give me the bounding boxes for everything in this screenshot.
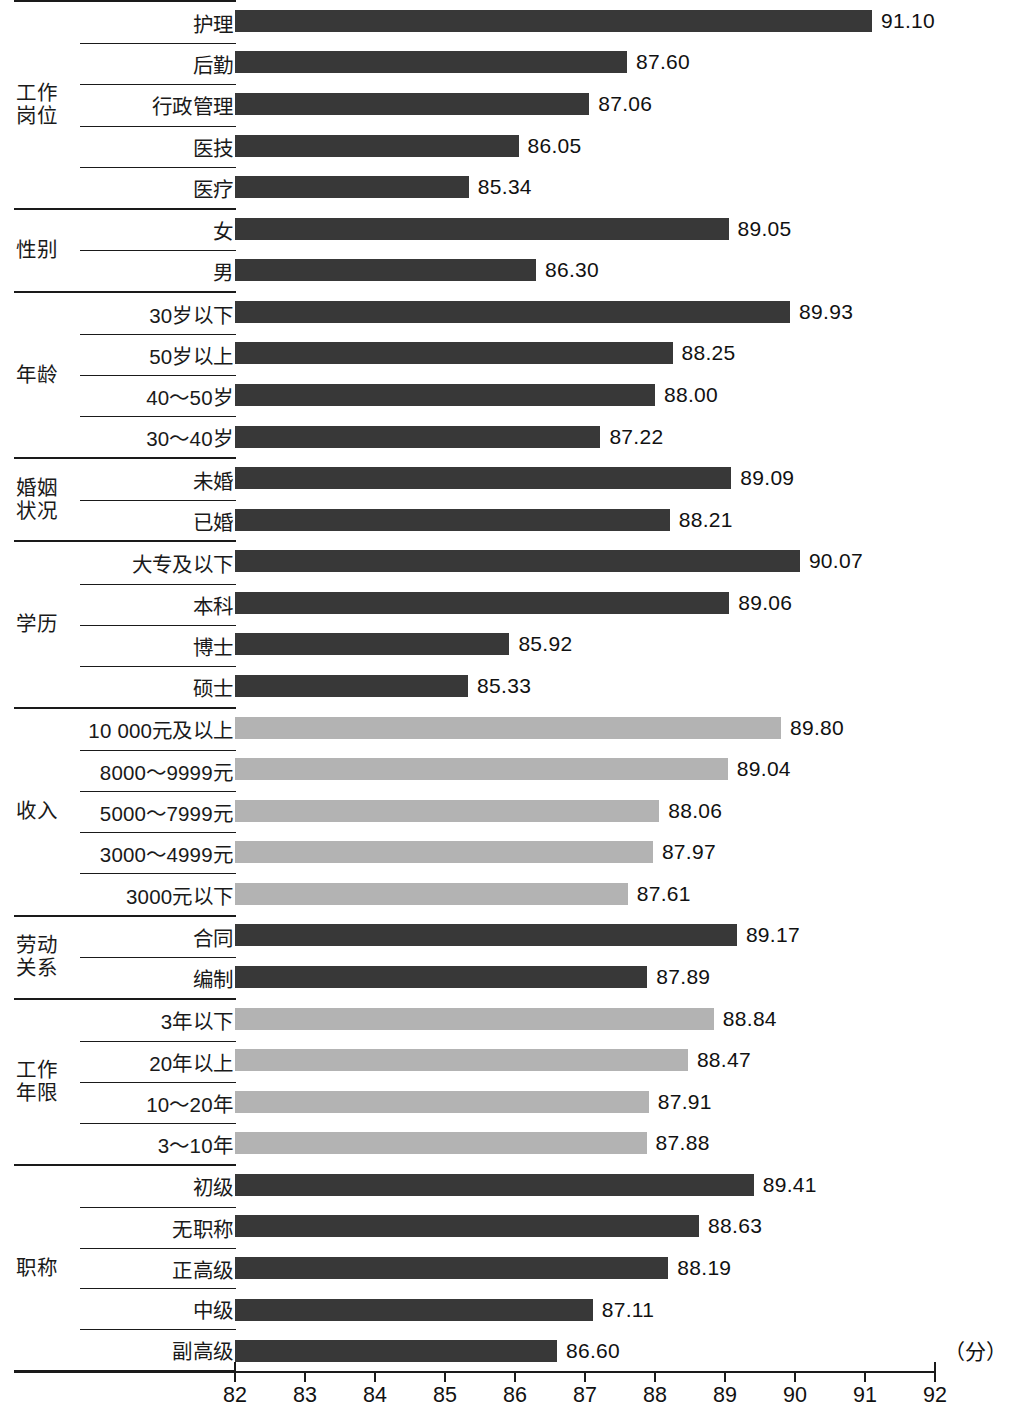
bar-value-label: 89.06 — [738, 592, 792, 614]
bar — [235, 218, 729, 240]
x-axis-tick-label: 84 — [363, 1383, 387, 1408]
bar — [235, 384, 655, 406]
bar-value-label: 87.89 — [656, 966, 710, 988]
bar-value-label: 88.63 — [708, 1215, 762, 1237]
bar — [235, 675, 468, 697]
x-axis-tick — [304, 1371, 306, 1382]
bar-value-label: 87.91 — [658, 1091, 712, 1113]
bar — [235, 135, 519, 157]
x-axis-tick — [654, 1371, 656, 1382]
bar — [235, 1257, 668, 1279]
bar-value-label: 87.22 — [609, 426, 663, 448]
bar-value-label: 89.05 — [738, 218, 792, 240]
bar — [235, 1091, 649, 1113]
x-axis-tick — [864, 1371, 866, 1382]
bar-value-label: 88.21 — [679, 509, 733, 531]
bar-value-label: 85.34 — [478, 176, 532, 198]
bar — [235, 176, 469, 198]
bar-value-label: 87.61 — [637, 883, 691, 905]
bar — [235, 1049, 688, 1071]
bar — [235, 1174, 754, 1196]
bar — [235, 592, 729, 614]
bar-value-label: 86.05 — [528, 135, 582, 157]
bar-value-label: 89.80 — [790, 717, 844, 739]
bar-value-label: 89.09 — [740, 467, 794, 489]
bar — [235, 509, 670, 531]
plot-area: 91.1087.6087.0686.0585.3489.0586.3089.93… — [0, 0, 1012, 1372]
x-axis-tick-label: 86 — [503, 1383, 527, 1408]
bar-value-label: 88.19 — [677, 1257, 731, 1279]
bar-value-label: 88.25 — [682, 342, 736, 364]
bar-value-label: 90.07 — [809, 550, 863, 572]
x-axis-tick-label: 92 — [923, 1383, 947, 1408]
bar — [235, 966, 647, 988]
x-axis-tick — [724, 1371, 726, 1382]
bar-value-label: 87.60 — [636, 51, 690, 73]
x-axis-tick-label: 90 — [783, 1383, 807, 1408]
bar — [235, 467, 731, 489]
bar — [235, 1299, 593, 1321]
bar-value-label: 87.06 — [598, 93, 652, 115]
x-axis-tick — [934, 1371, 936, 1382]
bar-value-label: 86.30 — [545, 259, 599, 281]
bar-value-label: 88.47 — [697, 1049, 751, 1071]
x-axis-tick — [234, 1371, 236, 1382]
bar — [235, 550, 800, 572]
bar — [235, 1008, 714, 1030]
bar — [235, 841, 653, 863]
x-axis-tick-label: 85 — [433, 1383, 457, 1408]
x-axis-tick — [374, 1371, 376, 1382]
bar-value-label: 88.84 — [723, 1008, 777, 1030]
bar-value-label: 87.11 — [602, 1299, 655, 1321]
bar-value-label: 89.04 — [737, 758, 791, 780]
x-axis-tick — [794, 1371, 796, 1382]
bar-value-label: 88.00 — [664, 384, 718, 406]
x-axis-tick — [584, 1371, 586, 1382]
bar-value-label: 85.33 — [477, 675, 531, 697]
bar — [235, 883, 628, 905]
bar-value-label: 87.97 — [662, 841, 716, 863]
bar-value-label: 88.06 — [668, 800, 722, 822]
x-axis-line — [14, 1371, 936, 1373]
x-axis-tick — [444, 1371, 446, 1382]
bar — [235, 1340, 557, 1362]
x-axis-tick-label: 87 — [573, 1383, 597, 1408]
bar-value-label: 86.60 — [566, 1340, 620, 1362]
bar — [235, 717, 781, 739]
bar — [235, 1132, 647, 1154]
bar-value-label: 85.92 — [518, 633, 572, 655]
x-axis-tick-label: 89 — [713, 1383, 737, 1408]
bar — [235, 426, 600, 448]
horizontal-bar-chart: 工作 岗位护理后勤行政管理医技医疗性别女男年龄30岁以下50岁以上40～50岁3… — [0, 0, 1012, 1409]
x-axis-unit-label: （分） — [944, 1335, 1007, 1365]
bar — [235, 259, 536, 281]
bar — [235, 10, 872, 32]
x-axis-tick-label: 83 — [293, 1383, 317, 1408]
bar — [235, 342, 673, 364]
bar — [235, 633, 509, 655]
bar — [235, 301, 790, 323]
bar — [235, 93, 589, 115]
x-axis-tick — [514, 1371, 516, 1382]
bar — [235, 924, 737, 946]
bar-value-label: 89.17 — [746, 924, 800, 946]
bar-value-label: 91.10 — [881, 10, 935, 32]
x-axis-tick-label: 88 — [643, 1383, 667, 1408]
x-axis-tick-label: 82 — [223, 1383, 247, 1408]
bar — [235, 800, 659, 822]
bar — [235, 758, 728, 780]
x-axis-tick-label: 91 — [853, 1383, 877, 1408]
bar-value-label: 89.93 — [799, 301, 853, 323]
bar-value-label: 87.88 — [656, 1132, 710, 1154]
bar — [235, 1215, 699, 1237]
bar-value-label: 89.41 — [763, 1174, 817, 1196]
bar — [235, 51, 627, 73]
